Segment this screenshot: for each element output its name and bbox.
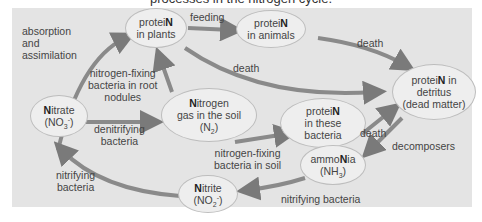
label-nitrifying-left: nitrifying bacteria (56, 169, 95, 193)
label-death-bacteria: death (360, 127, 386, 139)
arrow-death-plants (185, 48, 375, 93)
arrow-feeding (188, 28, 232, 30)
node-nitrogen-gas: Nitrogen gas in the soil (N2) (161, 88, 257, 142)
node-protein-in-plants: proteiN in plants (125, 8, 187, 48)
label-death-plants: death (233, 62, 259, 74)
node-nitrite: Nitrite (NO2-) (178, 175, 238, 213)
node-protein-in-detritus: proteiN in detritus (dead matter) (392, 64, 476, 120)
label-nitrifying-bottom: nitrifying bacteria (281, 193, 360, 205)
label-nitrogen-fixing-root: nitrogen-fixing bacteria in root nodules (88, 67, 157, 103)
label-decomposers: decomposers (392, 140, 455, 152)
node-ammonia: ammoNia (NH3) (300, 145, 366, 185)
arrow-nitrifying-bottom (248, 178, 305, 190)
label-feeding: feeding (190, 11, 224, 23)
arrow-nitrogen-fixing-root (160, 58, 172, 92)
arrow-nitrogen-fixing-soil (235, 134, 286, 142)
label-nitrogen-fixing-soil: nitrogen-fixing bacteria in soil (214, 147, 281, 171)
label-denitrifying: denitrifying bacteria (94, 123, 145, 147)
node-protein-in-animals: proteiN in animals (236, 10, 306, 48)
label-death-animals: death (357, 37, 383, 49)
node-nitrate: Nitrate (NO3-) (30, 95, 88, 137)
node-protein-in-bacteria: proteiN in these bacteria (280, 98, 366, 148)
label-absorption: absorption and assimilation (22, 25, 77, 61)
